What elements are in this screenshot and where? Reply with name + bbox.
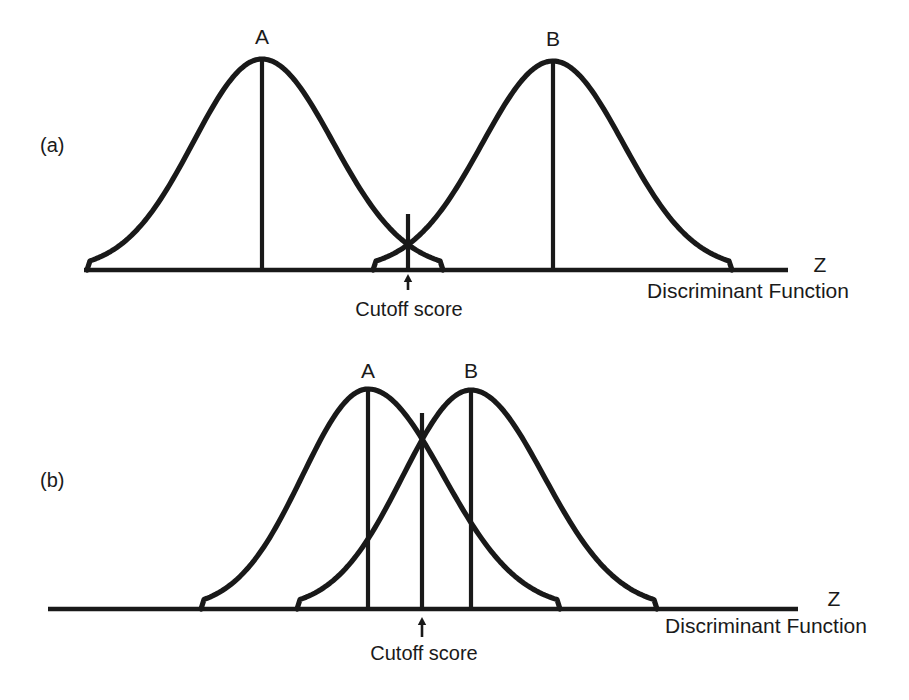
figure-canvas: AB(a)Cutoff scoreZDiscriminant FunctionA… <box>0 0 909 700</box>
cutoff-score-label: Cutoff score <box>355 298 462 320</box>
panels-group: AB(a)Cutoff scoreZDiscriminant FunctionA… <box>40 25 867 664</box>
axis-caption: Discriminant Function <box>647 279 849 302</box>
distribution-curve-a <box>201 389 560 609</box>
group-label-b: B <box>546 27 560 50</box>
group-label-b: B <box>464 359 478 382</box>
cutoff-arrow-head <box>418 617 426 625</box>
panel-a: AB(a)Cutoff scoreZDiscriminant Function <box>40 25 849 320</box>
panel-label: (b) <box>40 469 64 491</box>
group-label-a: A <box>361 359 375 382</box>
axis-name-z: Z <box>828 587 841 610</box>
cutoff-arrow-head <box>404 274 412 282</box>
axis-caption: Discriminant Function <box>665 614 867 637</box>
panel-b: AB(b)Cutoff scoreZDiscriminant Function <box>40 359 867 664</box>
axis-name-z: Z <box>814 253 827 276</box>
discriminant-function-figure: AB(a)Cutoff scoreZDiscriminant FunctionA… <box>0 0 909 700</box>
distribution-curve-b <box>297 390 657 609</box>
panel-label: (a) <box>40 134 64 156</box>
cutoff-score-label: Cutoff score <box>370 642 477 664</box>
group-label-a: A <box>255 25 269 48</box>
distribution-curve-a <box>87 59 443 270</box>
